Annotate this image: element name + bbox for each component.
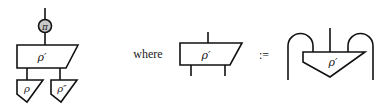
pi-node-label: π: [41, 22, 49, 32]
where-text: where: [133, 47, 162, 61]
middle-rho-prime-trapezoid: [180, 43, 242, 65]
left-diagram: π ρ′ ρ ρ″: [17, 8, 78, 102]
rho-prime-label: ρ′: [37, 51, 47, 64]
diagram-canvas: π ρ′ ρ ρ″ where ρ′ := ρ′: [0, 0, 390, 109]
rho-double-prime-label: ρ″: [56, 83, 67, 94]
rho-prime-trapezoid: [17, 45, 78, 68]
rho-label: ρ: [23, 83, 30, 94]
right-diagram: ρ′: [288, 28, 373, 80]
definition-symbol: :=: [259, 48, 269, 62]
right-rho-prime-label: ρ′: [328, 56, 338, 69]
rho-triangle: [17, 80, 43, 102]
middle-rho-prime-label: ρ′: [201, 49, 211, 62]
middle-diagram: ρ′: [180, 32, 242, 76]
